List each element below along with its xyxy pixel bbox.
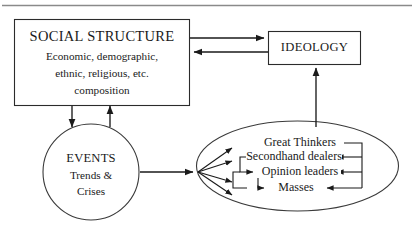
actor-label-secondhand-dealers: Secondhand dealers	[246, 149, 342, 163]
social-structure-line-2: ethnic, religious, etc.	[55, 67, 149, 79]
events-line-2: Crises	[77, 185, 105, 197]
actor-label-masses: Masses	[278, 180, 314, 194]
ideology-title: IDEOLOGY	[281, 40, 348, 54]
events-line-1: Trends &	[70, 169, 112, 181]
events-title: EVENTS	[66, 151, 115, 165]
social-structure-title: SOCIAL STRUCTURE	[30, 28, 175, 44]
actor-label-great-thinkers: Great Thinkers	[264, 135, 336, 149]
diagram-page: SOCIAL STRUCTURE Economic, demographic, …	[0, 0, 414, 228]
actor-label-opinion-leaders: Opinion leaders	[262, 164, 339, 178]
social-structure-ideology-diagram: SOCIAL STRUCTURE Economic, demographic, …	[0, 0, 414, 228]
social-structure-line-1: Economic, demographic,	[46, 50, 158, 62]
social-structure-line-3: composition	[74, 84, 130, 96]
